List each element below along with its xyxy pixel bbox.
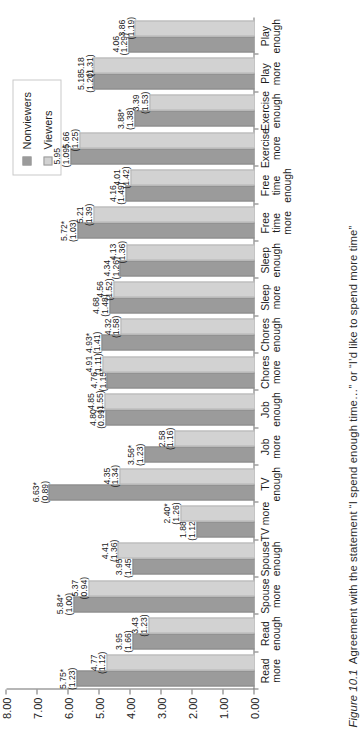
bar-viewers[interactable]: 4.91(1.11)	[102, 356, 254, 372]
bar-nonviewers[interactable]: 4.68(1.48)	[109, 297, 254, 313]
bar-mean-label: 5.66	[61, 128, 70, 150]
bar-viewers[interactable]: 4.77(1.12)	[106, 654, 254, 670]
bar-value-label: 4.77(1.12)	[89, 651, 108, 673]
bar-nonviewers[interactable]: 4.76(1.15)	[106, 372, 254, 388]
bar-sd-label: (1.11)	[93, 353, 102, 375]
category-axis-tick	[254, 651, 258, 652]
bar-mean-label: 3.88*	[116, 107, 125, 129]
rotated-page-wrapper: Nonviewers Viewers 0.001.002.003.004.005…	[0, 0, 364, 735]
bar-mean-label: 5.95	[52, 144, 61, 166]
category-axis-tick	[254, 539, 258, 540]
bar-viewers[interactable]: 2.58(1.16)	[174, 430, 254, 446]
bar-sd-label: (1.41)	[92, 331, 101, 353]
bar-nonviewers[interactable]: 3.88*(1.38)	[134, 110, 254, 126]
bar-group: 4.80(0.99)4.85(1.55)Jobenough	[6, 393, 254, 425]
category-axis-tick	[254, 240, 258, 241]
bar-value-label: 4.41(1.36)	[100, 539, 119, 561]
bar-mean-label: 4.01	[112, 166, 121, 188]
bar-viewers[interactable]: 4.13(1.36)	[126, 244, 254, 260]
category-axis-tick	[254, 277, 258, 278]
bar-value-label: 5.18(1.31)	[76, 54, 95, 76]
bar-group: 4.16(1.49)4.01(1.42)Freetimeenough	[6, 169, 254, 201]
bar-group: 5.18(1.20)5.18(1.31)Playmore	[6, 57, 254, 89]
bar-mean-label: 5.72*	[59, 219, 68, 241]
bar-nonviewers[interactable]: 6.63*(0.89)	[48, 484, 254, 500]
bar-nonviewers[interactable]: 4.93*(1.41)	[101, 334, 254, 350]
bar-viewers[interactable]: 4.56(1.52)	[113, 281, 254, 297]
bar-group: 1.88(1.12)2.40*(1.26)TV more	[6, 505, 254, 537]
bar-sd-label: (1.23)	[139, 614, 148, 636]
bar-viewers[interactable]: 2.40*(1.26)	[180, 505, 254, 521]
bar-nonviewers[interactable]: 5.18(1.20)	[93, 73, 254, 89]
bar-viewers[interactable]: 4.32(1.58)	[120, 318, 254, 334]
value-axis-tick	[36, 689, 37, 694]
bar-viewers[interactable]: 3.43(1.23)	[148, 617, 254, 633]
value-axis-label: 2.00	[186, 697, 198, 718]
bar-mean-label: 5.84*	[55, 592, 64, 614]
value-axis-tick	[160, 689, 161, 694]
bar-mean-label: 3.56*	[126, 443, 135, 465]
bar-sd-label: (1.26)	[171, 502, 180, 524]
bar-nonviewers[interactable]: 5.84*(1.00)	[73, 596, 254, 612]
bar-value-label: 5.37(0.94)	[70, 576, 89, 598]
category-axis-label: Playenough	[259, 14, 281, 58]
bar-viewers[interactable]: 5.37(0.94)	[88, 580, 254, 596]
bar-mean-label: 3.43	[130, 614, 139, 636]
bar-mean-label: 3.39	[131, 91, 140, 113]
bar-mean-label: 5.21	[75, 203, 84, 225]
bar-nonviewers[interactable]: 4.34(1.26)	[119, 260, 254, 276]
bar-value-label: 4.56(1.52)	[95, 278, 114, 300]
bar-nonviewers[interactable]: 4.06(1.29)	[128, 36, 254, 52]
bar-nonviewers[interactable]: 3.95(1.66)	[132, 633, 254, 649]
bar-group: 4.34(1.26)4.13(1.36)Sleepenough	[6, 244, 254, 276]
figure-page: Nonviewers Viewers 0.001.002.003.004.005…	[0, 0, 364, 735]
bar-viewers[interactable]: 4.35(1.34)	[119, 468, 254, 484]
bar-sd-label: (1.53)	[140, 91, 149, 113]
bar-viewers[interactable]: 4.41(1.36)	[117, 542, 254, 558]
bar-mean-label: 4.77	[89, 651, 98, 673]
bar-nonviewers[interactable]: 4.16(1.49)	[125, 185, 254, 201]
bar-nonviewers[interactable]: 5.72*(1.03)	[77, 222, 254, 238]
bar-mean-label: 3.86	[117, 16, 126, 38]
bar-mean-label: 3.95	[114, 630, 123, 652]
bar-nonviewers[interactable]: 5.95(1.09)	[70, 148, 254, 164]
category-axis-tick	[254, 91, 258, 92]
category-axis-label-line: enough	[270, 537, 281, 581]
bar-viewers[interactable]: 5.18(1.31)	[93, 57, 254, 73]
bar-mean-label: 4.35	[102, 464, 111, 486]
bar-sd-label: (1.25)	[70, 128, 79, 150]
value-axis-label: 6.00	[62, 697, 74, 718]
bar-value-label: 3.56*(1.23)	[126, 443, 145, 465]
bar-viewers[interactable]: 4.85(1.55)	[104, 393, 254, 409]
category-axis-tick	[254, 464, 258, 465]
bar-nonviewers[interactable]: 1.88(1.12)	[196, 521, 254, 537]
value-axis-label: 1.00	[217, 697, 229, 718]
bar-viewers[interactable]: 4.01(1.42)	[130, 169, 254, 185]
category-axis-tick	[254, 203, 258, 204]
bar-viewers[interactable]: 5.21(1.39)	[93, 206, 255, 222]
category-axis-tick	[254, 352, 258, 353]
bar-nonviewers[interactable]: 4.80(0.99)	[105, 409, 254, 425]
bar-value-label: 4.93*(1.41)	[84, 331, 103, 353]
bar-nonviewers[interactable]: 3.95(1.45)	[132, 558, 254, 574]
bar-group: 3.95(1.66)3.43(1.23)Readenough	[6, 617, 254, 649]
category-axis-label-line: enough	[270, 14, 281, 58]
bar-sd-label: (1.23)	[67, 667, 76, 689]
bar-sd-label: (0.89)	[40, 480, 49, 502]
bar-sd-label: (1.19)	[126, 16, 135, 38]
bar-value-label: 4.91(1.11)	[84, 353, 103, 375]
figure-caption-text: Agreement with the statement “I spend en…	[346, 225, 358, 664]
value-axis-tick	[253, 689, 254, 694]
bar-value-label: 4.13(1.36)	[108, 240, 127, 262]
bar-group: 3.95(1.45)4.41(1.36)Spouseenough	[6, 542, 254, 574]
category-axis-label-line: Play	[259, 14, 270, 58]
bar-sd-label: (0.94)	[79, 576, 88, 598]
bar-viewers[interactable]: 5.66(1.25)	[79, 132, 254, 148]
bar-viewers[interactable]: 3.86(1.19)	[134, 20, 254, 36]
bar-sd-label: (1.58)	[111, 315, 120, 337]
bar-viewers[interactable]: 3.39(1.53)	[149, 94, 254, 110]
bar-mean-label: 4.91	[84, 353, 93, 375]
bar-value-label: 2.58(1.16)	[157, 427, 176, 449]
value-axis-tick	[98, 689, 99, 694]
bar-mean-label: 4.41	[100, 539, 109, 561]
